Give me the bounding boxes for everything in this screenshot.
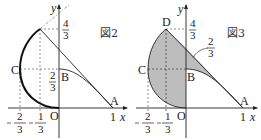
frac-2-3-num: 2	[50, 69, 56, 81]
frac-neg-1-3-num: 1	[38, 110, 44, 122]
frac-4-3-num: 4	[190, 17, 196, 29]
frac-neg-2-3-den: 3	[17, 123, 23, 135]
frac-neg-2-3-num: 2	[145, 110, 151, 122]
point-A-label: A	[110, 94, 119, 108]
y-axis-arrow-icon	[184, 4, 188, 9]
x-axis-label: x	[119, 110, 126, 124]
frac-annot-den: 3	[208, 47, 214, 59]
frac-4-3-den: 3	[190, 29, 196, 41]
figure-2-title: 図2	[100, 27, 118, 40]
frac-4-3-num: 4	[63, 17, 69, 29]
shaded-region-left	[148, 29, 186, 108]
point-A-label: A	[240, 94, 249, 108]
point-C-label: C	[11, 63, 19, 77]
x-axis-label: x	[249, 110, 256, 124]
y-axis-label: y	[177, 2, 184, 16]
y-axis-label: y	[50, 1, 57, 15]
frac-2-3-den: 3	[50, 81, 56, 93]
figure-3: y x A B C D O 1 4 3 2 3 2 3 1 3 図3	[135, 2, 258, 138]
tick-x-1: 1	[240, 110, 246, 124]
point-C-label: C	[138, 63, 146, 77]
point-O-label: O	[50, 109, 59, 123]
point-B-label: B	[61, 70, 69, 84]
point-O-label: O	[177, 109, 186, 123]
frac-4-3-den: 3	[63, 29, 69, 41]
y-axis-arrow-icon	[57, 4, 61, 9]
tick-x-1: 1	[110, 110, 116, 124]
frac-neg-2-3-den: 3	[145, 123, 151, 135]
diagram-canvas: y x A B C O 1 4 3 2 3 2 3 1 3 図2	[0, 0, 261, 140]
point-D-label: D	[162, 15, 171, 29]
point-B-label: B	[187, 70, 195, 84]
frac-neg-2-3-num: 2	[17, 110, 23, 122]
figure-2: y x A B C O 1 4 3 2 3 2 3 1 3 図2	[7, 1, 128, 138]
frac-neg-1-3-num: 1	[165, 110, 171, 122]
figure-3-title: 図3	[227, 27, 245, 40]
annotation-leader	[193, 48, 208, 58]
frac-neg-1-3-den: 3	[165, 123, 171, 135]
frac-annot-num: 2	[208, 35, 214, 47]
frac-neg-1-3-den: 3	[38, 123, 44, 135]
